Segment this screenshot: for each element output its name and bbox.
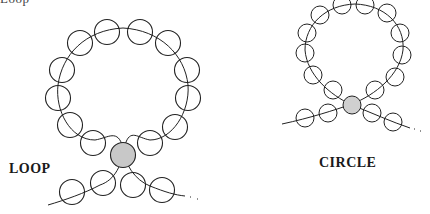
loop-thread-dots bbox=[190, 197, 199, 199]
loop-label: LOOP bbox=[9, 161, 51, 177]
loop-beads bbox=[46, 20, 201, 205]
circle-center-bead bbox=[343, 96, 361, 114]
beading-diagram bbox=[0, 0, 430, 214]
circle-beads bbox=[296, 0, 411, 131]
loop-center-bead bbox=[111, 143, 136, 168]
circle-thread-dots bbox=[414, 129, 422, 131]
circle-label: CIRCLE bbox=[319, 155, 376, 171]
loop-figure bbox=[48, 28, 199, 205]
